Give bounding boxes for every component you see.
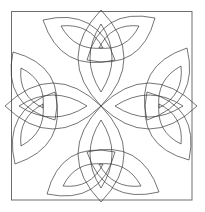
- right-lobe-inner: [99, 26, 139, 49]
- arm-left: [5, 52, 101, 164]
- right-lobe-inner: [159, 104, 182, 144]
- knot-diagram: [0, 0, 205, 212]
- right-lobe-inner: [63, 164, 103, 187]
- knot-arms: [5, 10, 197, 202]
- right-lobe-inner: [21, 68, 44, 108]
- arm-top: [43, 10, 155, 106]
- arm-right: [101, 48, 197, 160]
- arm-bottom: [47, 106, 159, 202]
